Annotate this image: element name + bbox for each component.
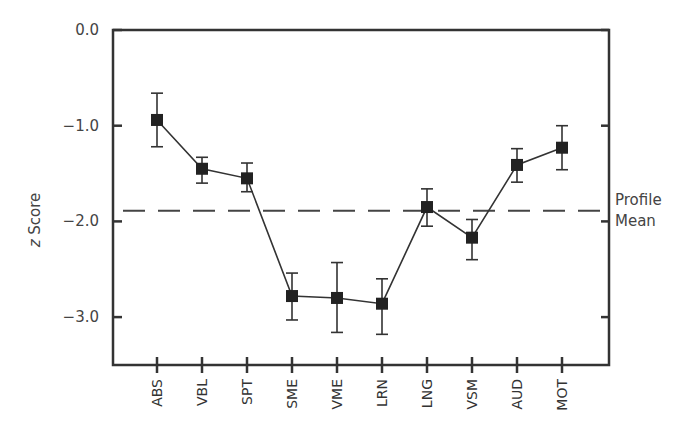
x-category-label: MOT [554,379,570,411]
y-tick-label: −2.0 [63,212,99,230]
square-marker [196,163,208,175]
x-category-label: AUD [509,379,525,410]
plot-frame [113,30,609,365]
square-marker [421,201,433,213]
square-marker [376,298,388,310]
mean-label: Mean [615,212,656,230]
square-marker [241,172,253,184]
x-category-label: SPT [239,379,255,405]
y-tick-label: −3.0 [63,308,99,326]
data-series [151,93,568,334]
plot-axes: 0.0−1.0−2.0−3.0 [63,21,609,373]
z-score-profile-chart: 0.0−1.0−2.0−3.0 ABSVBLSPTSMEVMELRNLNGVSM… [0,0,696,447]
y-tick-label: 0.0 [75,21,99,39]
y-axis-title: z Score [26,193,44,249]
square-marker [151,114,163,126]
x-category-label: VBL [194,379,210,406]
x-category-label: VSM [464,379,480,410]
square-marker [286,290,298,302]
axis-labels: ABSVBLSPTSMEVMELRNLNGVSMAUDMOT [149,379,570,411]
x-category-label: SME [284,379,300,409]
series-line [157,120,562,304]
square-marker [466,232,478,244]
profile-label: Profile [615,191,662,209]
square-marker [556,142,568,154]
y-tick-label: −1.0 [63,117,99,135]
x-category-label: VME [329,379,345,410]
square-marker [331,292,343,304]
x-category-label: LRN [374,379,390,407]
x-category-label: ABS [149,379,165,407]
x-category-label: LNG [419,379,435,408]
square-marker [511,159,523,171]
